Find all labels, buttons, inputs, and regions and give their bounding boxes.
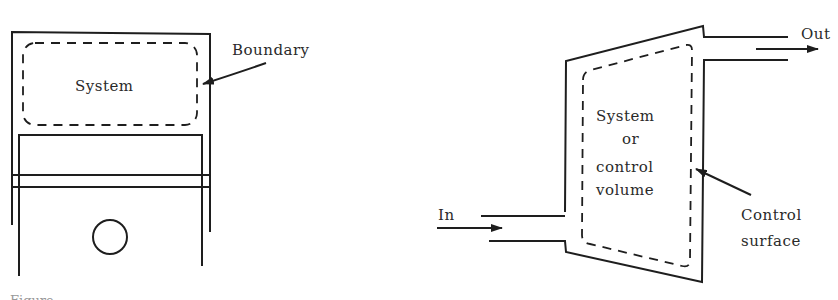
wrist-pin-circle xyxy=(93,220,127,254)
cv-label-line2: or xyxy=(622,130,640,148)
system-control-volume-figure: System Boundary System or control volume… xyxy=(0,0,838,300)
piston-cylinder-diagram: System Boundary xyxy=(12,32,310,276)
system-label: System xyxy=(75,77,134,95)
piston-ring xyxy=(12,175,210,187)
control-surface-label-line1: Control xyxy=(741,206,802,224)
control-surface-dashed xyxy=(582,45,692,267)
in-label: In xyxy=(438,206,455,224)
boundary-arrow-icon xyxy=(203,63,266,84)
control-volume-diagram: System or control volume In Out Control … xyxy=(437,25,831,282)
control-surface-label-line2: surface xyxy=(741,232,801,250)
out-label: Out xyxy=(801,25,831,43)
cv-label-line3: control xyxy=(596,158,654,176)
cylinder-wall xyxy=(12,32,210,232)
cv-label-line4: volume xyxy=(595,181,654,199)
cv-label-line1: System xyxy=(596,107,655,125)
figure-caption-partial: Figure xyxy=(10,290,54,300)
boundary-label: Boundary xyxy=(232,41,310,59)
control-surface-arrow-icon xyxy=(696,169,751,195)
